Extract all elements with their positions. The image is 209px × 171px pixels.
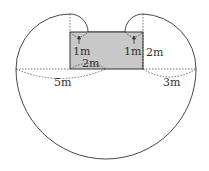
label-right-3m: 3m [163,76,181,89]
label-right-2m: 2m [146,46,164,59]
area-diagram: 1m 1m 2m 2m 5m 3m [0,0,209,171]
label-bottom-2m: 2m [82,57,100,70]
label-top-right-1m: 1m [124,45,142,58]
label-left-5m: 5m [54,76,72,89]
